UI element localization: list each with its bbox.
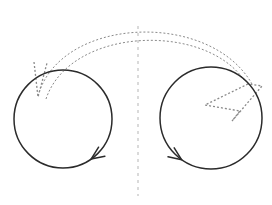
canvas-background [0,0,272,205]
figure-root [0,0,272,205]
diagram-canvas [0,0,272,205]
